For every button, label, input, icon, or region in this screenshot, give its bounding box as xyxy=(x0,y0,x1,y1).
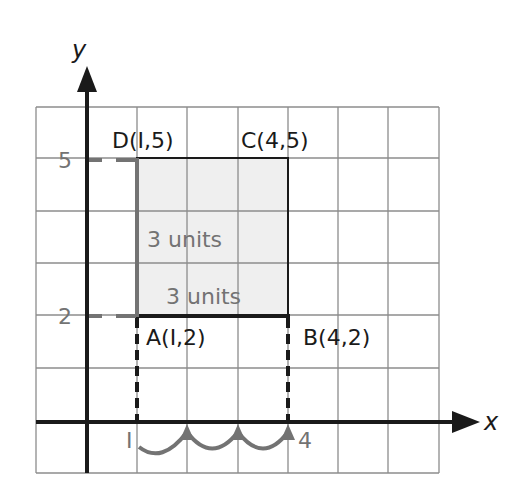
y-axis-arrowhead xyxy=(77,66,97,92)
hop-arrows xyxy=(139,432,288,453)
x-tick-label-4: 4 xyxy=(298,428,312,453)
y-axis-label: y xyxy=(71,36,87,64)
coordinate-plane: y x 5 2 I 4 D(I,5) C(4,5) A(I,2) B(4,2) … xyxy=(0,0,524,502)
y-tick-label-2: 2 xyxy=(58,304,72,329)
horizontal-side-length: 3 units xyxy=(166,284,241,309)
x-axis-label: x xyxy=(483,408,499,436)
y-guide-dashes xyxy=(87,160,136,316)
point-label-b: B(4,2) xyxy=(303,325,370,350)
x-tick-label-1: I xyxy=(126,428,133,453)
point-label-a: A(I,2) xyxy=(146,325,206,350)
vertical-side-length: 3 units xyxy=(147,227,222,252)
x-axis-arrowhead xyxy=(452,411,480,433)
point-label-c: C(4,5) xyxy=(241,128,309,153)
y-tick-label-5: 5 xyxy=(58,148,72,173)
hop-arrowheads xyxy=(180,424,295,440)
point-label-d: D(I,5) xyxy=(112,128,174,153)
